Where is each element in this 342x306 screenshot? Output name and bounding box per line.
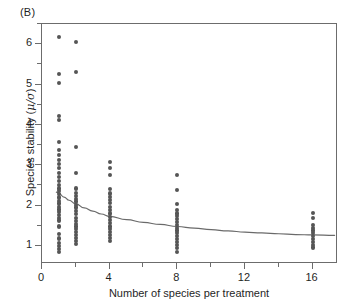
fitted-decay-curve (56, 192, 334, 235)
figure-panel-b: (B) 123456 0481216 Number of species per… (0, 0, 342, 306)
panel-label: (B) (20, 6, 35, 18)
x-axis-tick (176, 263, 177, 269)
scatter-point (108, 160, 112, 164)
x-axis-minor-tick (278, 263, 279, 267)
scatter-point (74, 145, 78, 149)
scatter-point (74, 40, 78, 44)
x-axis-tick-label: 8 (164, 271, 188, 283)
scatter-point (57, 72, 61, 76)
x-axis-tick-label: 16 (300, 271, 324, 283)
y-axis-title-symbol: μ/σ (24, 92, 37, 110)
fit-curve-layer (42, 24, 337, 263)
plot-area (41, 23, 337, 263)
scatter-point (108, 173, 112, 177)
scatter-point (57, 118, 61, 122)
x-axis-minor-tick (142, 263, 143, 267)
x-axis-tick (244, 263, 245, 269)
x-axis-tick-label: 12 (232, 271, 256, 283)
scatter-point (311, 216, 315, 220)
scatter-point (311, 211, 315, 215)
x-axis-minor-tick (210, 263, 211, 267)
scatter-point (57, 232, 61, 236)
scatter-point (74, 70, 78, 74)
x-axis-tick-label: 4 (97, 271, 121, 283)
x-axis-tick (41, 263, 42, 269)
scatter-point (57, 224, 61, 228)
x-axis-tick (312, 263, 313, 269)
y-axis-title-prefix: Species stability ( (24, 111, 36, 197)
x-axis-title: Number of species per treatment (41, 287, 337, 300)
scatter-point (311, 245, 315, 249)
scatter-point (74, 171, 78, 175)
scatter-point (74, 242, 78, 246)
x-axis-tick-label: 0 (29, 271, 53, 283)
x-axis-minor-tick (75, 263, 76, 267)
y-axis-title: Species stability (μ/σ) (24, 27, 37, 259)
scatter-point (57, 218, 61, 222)
x-axis-tick (109, 263, 110, 269)
scatter-point (108, 239, 112, 243)
y-axis-title-suffix: ) (24, 89, 36, 93)
